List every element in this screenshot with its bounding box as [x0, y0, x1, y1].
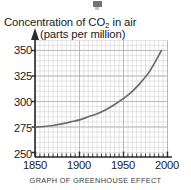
y-tick-label-350: 350: [4, 45, 32, 56]
x-tick-label-2000: 2000: [150, 160, 184, 171]
y-tick-label-325: 325: [4, 71, 32, 82]
figure-caption: GRAPH OF GREENHOUSE EFFECT: [0, 176, 191, 185]
x-tick-label-1850: 1850: [18, 160, 52, 171]
y-axis-arrow-icon: [31, 28, 39, 40]
x-tick-label-1950: 1950: [106, 160, 140, 171]
tick-marks: [32, 51, 168, 158]
data-series: [36, 51, 162, 128]
co2-concentration-curve: [36, 51, 162, 128]
greenhouse-effect-figure: Concentration of CO2 in air (parts per m…: [0, 0, 191, 190]
grid-minor: [36, 41, 168, 158]
y-tick-label-300: 300: [4, 97, 32, 108]
y-tick-label-275: 275: [4, 123, 32, 134]
x-tick-label-1900: 1900: [62, 160, 96, 171]
